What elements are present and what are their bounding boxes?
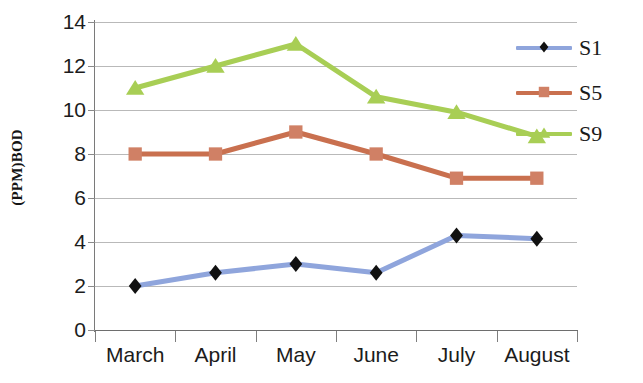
legend-swatch-icon: [516, 123, 572, 145]
y-axis-tick: [88, 330, 95, 331]
y-axis-tick: [88, 286, 95, 287]
x-axis-tick: [416, 331, 417, 342]
gridline: [95, 66, 577, 67]
x-axis-tick: [95, 331, 96, 342]
gridline: [95, 286, 577, 287]
y-axis-tick: [88, 22, 95, 23]
legend-item-s1[interactable]: S1: [516, 35, 602, 61]
y-axis-tick-label: 10: [34, 99, 86, 120]
y-axis-title-text: (PPM)BOD: [9, 129, 26, 206]
y-axis-tick-label: 14: [34, 11, 86, 32]
x-axis-tick-label: April: [175, 344, 255, 365]
gridline: [95, 22, 577, 23]
y-axis-tick-label: 8: [34, 143, 86, 164]
legend-marker-triangle-icon: [538, 127, 550, 139]
y-axis-tick: [88, 242, 95, 243]
legend-label: S9: [579, 123, 602, 145]
x-axis-tick: [336, 331, 337, 342]
x-axis-tick: [577, 331, 578, 342]
gridline: [95, 154, 577, 155]
legend-marker-diamond-icon: [538, 41, 550, 53]
y-axis-tick: [88, 154, 95, 155]
y-axis-tick-labels: 02468101214: [28, 0, 86, 383]
x-axis-tick: [175, 331, 176, 342]
x-axis-tick-label: March: [95, 344, 175, 365]
x-axis-tick: [256, 331, 257, 342]
legend-label: S1: [579, 37, 602, 59]
x-axis-tick-label: June: [336, 344, 416, 365]
gridline: [95, 242, 577, 243]
legend-label: S5: [579, 82, 602, 104]
plot-area: [95, 22, 577, 330]
y-axis-tick-label: 6: [34, 187, 86, 208]
x-axis-tick-label: May: [256, 344, 336, 365]
y-axis-tick-label: 2: [34, 275, 86, 296]
y-axis-tick-label: 0: [34, 319, 86, 340]
y-axis-tick-label: 12: [34, 55, 86, 76]
y-axis-tick: [88, 198, 95, 199]
legend-swatch-icon: [516, 37, 572, 59]
legend-item-s9[interactable]: S9: [516, 121, 602, 147]
x-axis-tick-label: August: [497, 344, 577, 365]
legend-swatch-icon: [516, 82, 572, 104]
gridline: [95, 110, 577, 111]
legend-marker-square-icon: [538, 86, 550, 98]
y-axis-tick-label: 4: [34, 231, 86, 252]
y-axis-tick: [88, 110, 95, 111]
chart-legend: S1S5S9: [516, 30, 643, 160]
x-axis-tick-label: July: [416, 344, 496, 365]
gridline: [95, 198, 577, 199]
x-axis-tick: [497, 331, 498, 342]
legend-item-s5[interactable]: S5: [516, 80, 602, 106]
line-chart: (PPM)BOD 02468101214 MarchAprilMayJuneJu…: [0, 0, 643, 383]
y-axis-tick: [88, 66, 95, 67]
